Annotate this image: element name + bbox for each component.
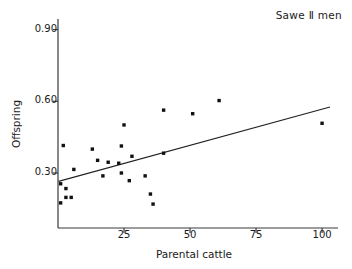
data-point: [117, 162, 120, 165]
x-axis-label: Parental cattle: [58, 248, 330, 260]
x-tick-label-25: 25: [104, 229, 144, 240]
data-point: [191, 112, 194, 115]
chart-title: Sawe Ⅱ men: [276, 9, 342, 21]
data-point: [122, 123, 125, 126]
data-point: [62, 144, 65, 147]
x-tick-label-100: 100: [302, 229, 342, 240]
data-point: [101, 174, 104, 177]
regression-line-path: [59, 107, 330, 181]
data-point: [120, 144, 123, 147]
data-point: [59, 201, 62, 204]
data-point: [70, 196, 73, 199]
data-point: [72, 168, 75, 171]
data-point: [143, 174, 146, 177]
data-point: [128, 179, 131, 182]
data-point: [217, 99, 220, 102]
data-point-group: [59, 99, 324, 206]
data-point: [162, 151, 165, 154]
data-point: [162, 108, 165, 111]
plot-axes: [58, 19, 338, 228]
y-tick-label-0.90: 0.90: [0, 23, 57, 34]
data-point: [96, 159, 99, 162]
x-tick-marks: [124, 228, 322, 233]
x-tick-label-50: 50: [170, 229, 210, 240]
data-point: [64, 187, 67, 190]
data-point: [64, 196, 67, 199]
data-point: [106, 161, 109, 164]
data-point: [59, 182, 62, 185]
y-tick-label-0.30: 0.30: [0, 166, 57, 177]
x-tick-label-75: 75: [236, 229, 276, 240]
data-point: [120, 171, 123, 174]
regression-line: [59, 107, 330, 181]
y-tick-label-0.60: 0.60: [0, 94, 57, 105]
data-point: [130, 155, 133, 158]
data-point: [151, 202, 154, 205]
data-point: [149, 192, 152, 195]
data-point: [320, 122, 323, 125]
data-point: [91, 147, 94, 150]
